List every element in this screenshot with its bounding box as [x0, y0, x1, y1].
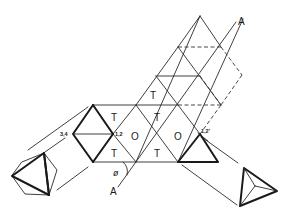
- face-label-o: O: [131, 131, 139, 142]
- axis-label-top: A: [238, 16, 245, 27]
- angle-label: ø: [113, 168, 119, 178]
- octahedron-icon: [12, 153, 57, 195]
- projection-lines: [28, 107, 238, 205]
- face-label-t: T: [150, 90, 156, 101]
- face-label-t: T: [111, 148, 117, 159]
- vertex-label-right: 1,2': [201, 128, 211, 134]
- vertex-label-left: 3,4: [60, 131, 69, 137]
- face-label-t: T: [154, 112, 160, 123]
- axis-label-bottom: A: [110, 186, 117, 197]
- face-label-t: T: [154, 148, 160, 159]
- face-labels: T T T O O T T: [111, 90, 182, 159]
- face-label-t: T: [111, 112, 117, 123]
- face-label-o: O: [174, 131, 182, 142]
- angle-arc: [123, 162, 127, 175]
- tetrahedron-icon: [240, 168, 277, 206]
- vertex-label-center: 1,2: [115, 131, 123, 137]
- polyhedron-net-diagram: T T T O O T T A A ø 3,4 1,2 1,2': [0, 0, 293, 215]
- lattice-lines: [73, 16, 243, 162]
